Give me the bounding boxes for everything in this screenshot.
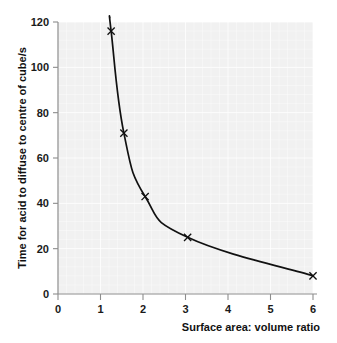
x-tick-label: 3: [182, 303, 188, 315]
diffusion-time-line-chart: 020406080100120 0123456 Surface area: vo…: [0, 0, 337, 343]
x-tick-label: 1: [97, 303, 103, 315]
y-axis-title: Time for acid to diffuse to centre of cu…: [16, 47, 28, 269]
chart-figure: 020406080100120 0123456 Surface area: vo…: [0, 0, 337, 343]
y-tick-label: 120: [31, 16, 49, 28]
y-tick-label: 0: [43, 288, 49, 300]
y-tick-label: 100: [31, 61, 49, 73]
x-axis-title: Surface area: volume ratio: [182, 321, 320, 333]
x-tick-label: 0: [55, 303, 61, 315]
y-tick-label: 60: [37, 152, 49, 164]
x-tick-label: 2: [140, 303, 146, 315]
y-tick-label: 40: [37, 197, 49, 209]
x-tick-label: 6: [310, 303, 316, 315]
y-tick-label: 20: [37, 243, 49, 255]
x-tick-label: 4: [225, 303, 232, 315]
y-tick-label: 80: [37, 107, 49, 119]
x-tick-label: 5: [267, 303, 273, 315]
